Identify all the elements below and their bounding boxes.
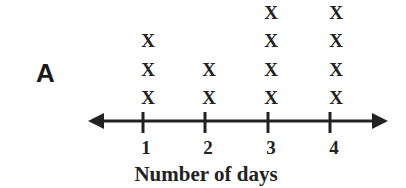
x-mark: X: [264, 31, 278, 50]
x-mark: X: [141, 60, 155, 79]
x-mark: X: [264, 3, 278, 22]
tick-label: 1: [141, 138, 151, 157]
x-mark: X: [329, 31, 343, 50]
x-mark: X: [202, 88, 216, 107]
x-mark: X: [329, 88, 343, 107]
tick-label: 2: [203, 138, 213, 157]
x-axis-title: Number of days: [134, 164, 277, 185]
tick-label: 4: [329, 138, 339, 157]
x-mark: X: [141, 31, 155, 50]
x-mark: X: [329, 3, 343, 22]
x-mark: X: [264, 88, 278, 107]
x-mark: X: [329, 60, 343, 79]
x-mark: X: [141, 88, 155, 107]
tick-label: 3: [266, 138, 276, 157]
left-arrow-icon: [88, 113, 104, 129]
x-mark: X: [202, 60, 216, 79]
right-arrow-icon: [372, 113, 388, 129]
x-mark: X: [264, 60, 278, 79]
